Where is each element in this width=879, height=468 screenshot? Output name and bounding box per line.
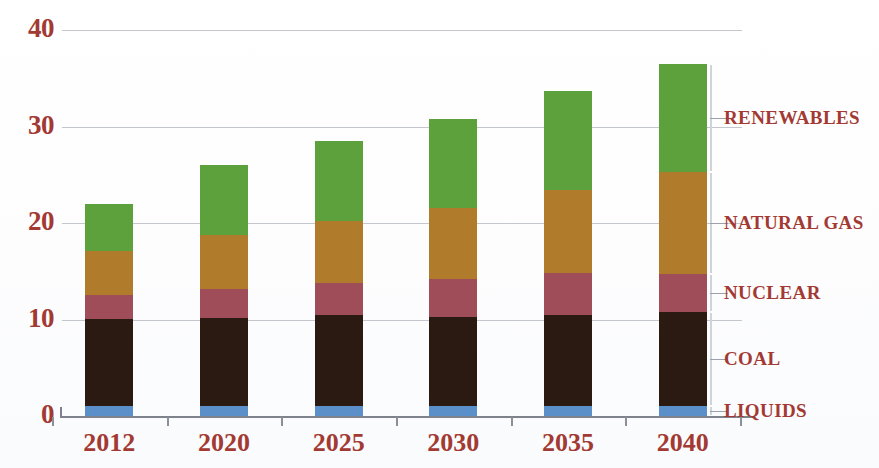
bar-segment-2035-nuclear[interactable]	[544, 273, 592, 314]
x-axis-tickmark-2	[281, 417, 283, 426]
bar-segment-2035-coal[interactable]	[544, 315, 592, 407]
bar-segment-2035-natural-gas[interactable]	[544, 190, 592, 273]
x-axis-tick-label-2035: 2035	[508, 430, 628, 456]
x-axis-tick-label-2012: 2012	[49, 430, 169, 456]
bar-segment-2040-coal[interactable]	[659, 312, 707, 407]
y-axis-origin-tick	[60, 407, 62, 418]
x-axis-tick-label-2040: 2040	[623, 430, 743, 456]
bar-segment-2020-nuclear[interactable]	[200, 289, 248, 318]
x-axis-tickmark-1	[167, 417, 169, 426]
x-axis-tickmark-3	[396, 417, 398, 426]
x-axis-tick-label-2030: 2030	[393, 430, 513, 456]
bar-segment-2035-liquids[interactable]	[544, 406, 592, 416]
bar-2035[interactable]	[544, 30, 592, 416]
bar-segment-2040-natural-gas[interactable]	[659, 172, 707, 274]
y-axis-tick-label-20: 20	[6, 208, 54, 235]
gridline-30	[62, 127, 742, 128]
bar-segment-2020-natural-gas[interactable]	[200, 235, 248, 289]
bar-segment-2020-renewables[interactable]	[200, 165, 248, 234]
bar-segment-2040-nuclear[interactable]	[659, 274, 707, 312]
stacked-bar-chart: 010203040201220202025203020352040RENEWAB…	[0, 0, 879, 468]
bar-segment-2030-renewables[interactable]	[429, 119, 477, 208]
figure-page: 010203040201220202025203020352040RENEWAB…	[0, 0, 879, 468]
bar-2040[interactable]	[659, 30, 707, 416]
bar-segment-2025-natural-gas[interactable]	[315, 221, 363, 283]
legend-label-nuclear[interactable]: NUCLEAR	[724, 283, 821, 302]
bar-2030[interactable]	[429, 30, 477, 416]
bar-segment-2030-coal[interactable]	[429, 317, 477, 407]
bar-segment-2012-natural-gas[interactable]	[85, 251, 133, 295]
legend-label-renewables[interactable]: RENEWABLES	[724, 108, 860, 127]
bar-segment-2012-coal[interactable]	[85, 319, 133, 407]
x-axis-tickmark-4	[511, 417, 513, 426]
bar-segment-2020-coal[interactable]	[200, 318, 248, 407]
bar-segment-2012-nuclear[interactable]	[85, 295, 133, 318]
bar-segment-2030-nuclear[interactable]	[429, 279, 477, 317]
gridline-40	[62, 30, 742, 31]
bar-2025[interactable]	[315, 30, 363, 416]
bar-2012[interactable]	[85, 30, 133, 416]
bar-segment-2012-renewables[interactable]	[85, 204, 133, 251]
y-axis-tick-label-40: 40	[6, 15, 54, 42]
bar-segment-2025-renewables[interactable]	[315, 141, 363, 221]
bar-segment-2020-liquids[interactable]	[200, 406, 248, 416]
x-axis-line	[60, 416, 754, 418]
gridline-10	[62, 320, 742, 321]
bar-2020[interactable]	[200, 30, 248, 416]
bar-segment-2025-coal[interactable]	[315, 315, 363, 407]
bar-segment-2025-nuclear[interactable]	[315, 283, 363, 315]
legend-label-natural_gas[interactable]: NATURAL GAS	[724, 213, 864, 232]
x-axis-tick-label-2020: 2020	[164, 430, 284, 456]
y-axis-tick-label-10: 10	[6, 305, 54, 332]
bar-segment-2035-renewables[interactable]	[544, 91, 592, 190]
bar-segment-2025-liquids[interactable]	[315, 406, 363, 416]
x-axis-tick-label-2025: 2025	[279, 430, 399, 456]
legend-label-liquids[interactable]: LIQUIDS	[724, 401, 807, 420]
bar-segment-2040-renewables[interactable]	[659, 64, 707, 172]
bar-segment-2040-liquids[interactable]	[659, 406, 707, 416]
gridline-20	[62, 223, 742, 224]
bar-segment-2030-natural-gas[interactable]	[429, 208, 477, 279]
legend-label-coal[interactable]: COAL	[724, 349, 781, 368]
x-axis-tickmark-5	[625, 417, 627, 426]
bar-segment-2030-liquids[interactable]	[429, 406, 477, 416]
y-axis-tick-label-30: 30	[6, 112, 54, 139]
bar-segment-2012-liquids[interactable]	[85, 406, 133, 416]
x-axis-tickmark-0	[52, 417, 54, 426]
y-axis-tick-label-0: 0	[6, 401, 54, 428]
